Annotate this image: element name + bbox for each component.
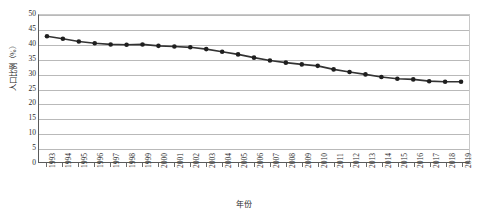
- plot-area: [38, 14, 470, 163]
- x-axis-tick-label: 2010: [321, 153, 329, 168]
- x-axis-tick: [446, 163, 447, 167]
- x-axis-tick-label: 2015: [401, 153, 409, 168]
- data-point-marker: [156, 44, 161, 49]
- x-axis-tick: [238, 163, 239, 167]
- y-axis-tick-label: 20: [14, 99, 36, 107]
- x-axis-tick-label: 2016: [417, 153, 425, 168]
- x-axis-tick-labels: 1993199419951996199719981999200020012002…: [38, 168, 470, 198]
- x-axis-tick: [222, 163, 223, 167]
- data-point-marker: [427, 79, 432, 84]
- x-axis-tick-label: 2000: [161, 153, 169, 168]
- x-axis-tick-label: 2009: [305, 153, 313, 168]
- y-axis-tick-label: 45: [14, 25, 36, 33]
- y-axis-tick-label: 25: [14, 85, 36, 93]
- series-markers: [45, 34, 464, 84]
- data-point-marker: [252, 55, 257, 60]
- data-point-marker: [220, 49, 225, 54]
- data-point-marker: [443, 79, 448, 84]
- data-point-marker: [363, 72, 368, 77]
- x-axis-tick: [430, 163, 431, 167]
- x-axis-tick: [126, 163, 127, 167]
- data-point-marker: [236, 52, 241, 57]
- x-axis-tick: [94, 163, 95, 167]
- x-axis-title: 年份: [0, 200, 487, 210]
- x-axis-tick: [190, 163, 191, 167]
- data-point-marker: [92, 41, 97, 46]
- x-axis-tick-label: 2001: [177, 153, 185, 168]
- x-axis-tick-label: 2004: [225, 153, 233, 168]
- data-point-marker: [395, 77, 400, 82]
- x-axis-tick-label: 1998: [129, 153, 137, 168]
- x-axis-tick: [286, 163, 287, 167]
- data-point-marker: [268, 58, 273, 63]
- x-axis-tick-label: 2011: [337, 153, 345, 168]
- x-axis-tick-label: 2003: [209, 153, 217, 168]
- data-point-marker: [411, 77, 416, 82]
- x-axis-tick-label: 1997: [113, 153, 121, 168]
- x-axis-tick-label: 2018: [449, 153, 457, 168]
- data-point-marker: [108, 42, 113, 47]
- y-axis-tick-label: 10: [14, 129, 36, 137]
- x-axis-tick: [174, 163, 175, 167]
- x-axis-tick: [302, 163, 303, 167]
- data-point-marker: [172, 44, 177, 49]
- data-point-marker: [45, 34, 50, 39]
- x-axis-tick-label: 2005: [241, 153, 249, 168]
- x-axis-tick: [46, 163, 47, 167]
- y-axis-tick-labels: 05101520253035404550: [14, 0, 36, 218]
- data-point-marker: [347, 70, 352, 75]
- y-axis-tick-label: 0: [14, 159, 36, 167]
- x-axis-tick-label: 2014: [385, 153, 393, 168]
- x-axis-tick: [366, 163, 367, 167]
- data-series-line: [39, 15, 469, 162]
- x-axis-tick: [462, 163, 463, 167]
- x-axis-tick-label: 2017: [433, 153, 441, 168]
- data-point-marker: [77, 39, 82, 44]
- x-axis-tick-label: 2019: [465, 153, 473, 168]
- data-point-marker: [299, 62, 304, 67]
- data-point-marker: [61, 37, 66, 42]
- x-axis-tick: [142, 163, 143, 167]
- x-axis-tick-label: 2012: [353, 153, 361, 168]
- data-point-marker: [284, 60, 289, 65]
- data-point-marker: [379, 75, 384, 80]
- x-axis-tick-label: 2013: [369, 153, 377, 168]
- y-axis-tick-label: 15: [14, 114, 36, 122]
- x-axis-tick-label: 1994: [65, 153, 73, 168]
- data-point-marker: [124, 42, 129, 47]
- x-axis-tick-label: 2007: [273, 153, 281, 168]
- x-axis-tick: [206, 163, 207, 167]
- y-axis-tick-label: 30: [14, 70, 36, 78]
- x-axis-tick: [158, 163, 159, 167]
- data-point-marker: [204, 47, 209, 52]
- x-axis-tick-label: 2002: [193, 153, 201, 168]
- x-axis-tick: [398, 163, 399, 167]
- y-axis-tick-label: 40: [14, 40, 36, 48]
- x-axis-tick-label: 1999: [145, 153, 153, 168]
- data-point-marker: [188, 45, 193, 50]
- x-axis-tick: [350, 163, 351, 167]
- x-axis-tick: [110, 163, 111, 167]
- x-axis-tick: [62, 163, 63, 167]
- x-axis-tick-label: 2008: [289, 153, 297, 168]
- x-axis-tick: [334, 163, 335, 167]
- x-axis-tick: [414, 163, 415, 167]
- data-point-marker: [315, 64, 320, 69]
- line-chart: 人口比例（%） 05101520253035404550 19931994199…: [0, 0, 487, 218]
- x-axis-tick: [318, 163, 319, 167]
- x-axis-tick: [382, 163, 383, 167]
- data-point-marker: [331, 67, 336, 72]
- x-axis-tick-label: 1993: [49, 153, 57, 168]
- y-axis-tick-label: 5: [14, 144, 36, 152]
- x-axis-tick: [78, 163, 79, 167]
- y-axis-tick-label: 35: [14, 55, 36, 63]
- data-point-marker: [459, 79, 464, 84]
- x-axis-tick-label: 2006: [257, 153, 265, 168]
- data-point-marker: [140, 42, 145, 47]
- y-axis-tick-label: 50: [14, 10, 36, 18]
- x-axis-tick-label: 1995: [81, 153, 89, 168]
- x-axis-tick: [254, 163, 255, 167]
- x-axis-tick-label: 1996: [97, 153, 105, 168]
- x-axis-tick: [270, 163, 271, 167]
